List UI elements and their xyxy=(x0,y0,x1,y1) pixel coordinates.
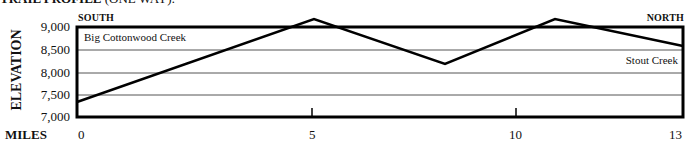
x-tick-0: 0 xyxy=(78,127,85,143)
x-tick-10: 10 xyxy=(509,127,522,143)
annotation-stout-creek: Stout Creek xyxy=(626,54,678,66)
x-tick-5: 5 xyxy=(309,127,316,143)
profile-plot xyxy=(0,0,688,149)
annotation-big-cottonwood-creek: Big Cottonwood Creek xyxy=(84,31,186,43)
x-axis-label: MILES xyxy=(5,127,47,143)
x-tick-13: 13 xyxy=(669,127,682,143)
